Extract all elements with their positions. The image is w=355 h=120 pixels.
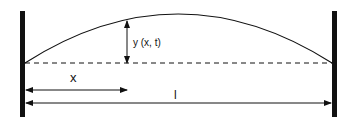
string-curve: [25, 14, 332, 63]
position-label: x: [70, 70, 77, 85]
displacement-label: y (x, t): [133, 37, 161, 48]
diagram-graphics: [0, 0, 355, 120]
length-label: l: [174, 88, 177, 102]
right-support: [332, 11, 337, 117]
string-diagram: y (x, t) x l: [0, 0, 355, 120]
left-support: [20, 11, 25, 117]
